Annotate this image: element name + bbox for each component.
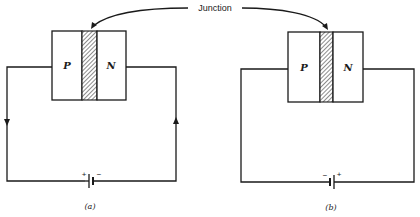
battery-icon [85, 174, 95, 188]
n-label: N [342, 62, 353, 73]
current-arrow-down-icon [4, 119, 10, 126]
p-label: P [299, 62, 308, 73]
battery-right-sign: − [97, 170, 102, 179]
depletion-junction [320, 32, 333, 102]
panel-caption: (a) [84, 202, 95, 211]
n-label: N [105, 60, 116, 71]
panel-caption: (b) [325, 203, 336, 212]
battery-left-sign: − [323, 171, 328, 180]
panel-b: P N − + (b) [241, 32, 414, 212]
current-arrow-up-icon [173, 117, 179, 124]
battery-left-sign: + [82, 170, 87, 179]
junction-arrow-left [93, 8, 188, 26]
p-label: P [62, 60, 71, 71]
battery-right-sign: + [337, 170, 342, 179]
panel-a: P N + − (a) [4, 31, 179, 211]
battery-icon [328, 175, 336, 189]
junction-arrow-right [242, 8, 326, 27]
junction-callout: Junction [91, 3, 328, 30]
depletion-junction [82, 31, 97, 100]
junction-label: Junction [198, 3, 232, 13]
pn-junction-diagram: Junction P N + − (a) [0, 0, 420, 217]
